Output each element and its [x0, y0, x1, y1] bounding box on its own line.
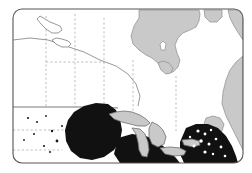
black-speckle-dot: [61, 125, 63, 127]
map-canvas: [0, 0, 252, 173]
black-speckle-dot: [45, 115, 47, 117]
black-speckle-dot: [33, 133, 35, 135]
black-speckle-dot: [56, 140, 59, 143]
screenshot-root: [0, 0, 252, 173]
white-speckle-dot: [199, 139, 203, 143]
black-speckle-dot: [51, 130, 53, 132]
black-speckle-dot: [36, 121, 38, 123]
white-speckle-dot: [215, 138, 218, 141]
black-speckle-dot: [23, 139, 25, 141]
white-speckle-dot: [203, 150, 206, 153]
black-speckle-dot: [43, 145, 45, 147]
black-speckle-dot: [49, 151, 51, 153]
white-speckle-dot: [224, 155, 227, 158]
white-speckle-dot: [208, 143, 211, 146]
map-figure: [0, 0, 252, 173]
white-speckle-dot: [204, 133, 207, 136]
white-speckle-dot: [193, 145, 196, 148]
white-speckle-dot: [210, 129, 212, 131]
black-speckle-dot: [27, 117, 29, 119]
white-speckle-dot: [220, 146, 223, 149]
white-speckle-dot: [212, 153, 214, 155]
white-speckle-dot: [189, 136, 191, 138]
white-speckle-dot: [196, 129, 199, 132]
